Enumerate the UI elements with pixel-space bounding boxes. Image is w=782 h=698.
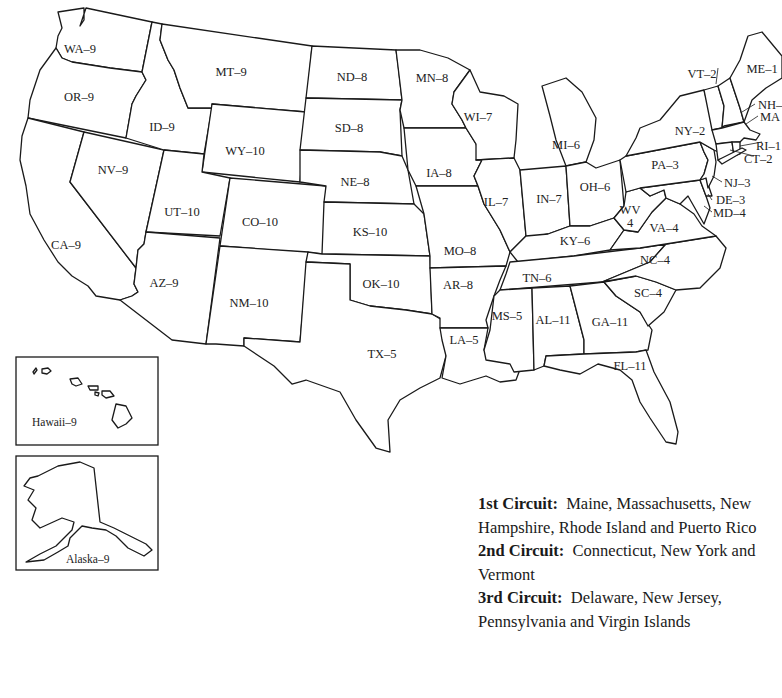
hawaii-island-maui (102, 391, 114, 398)
label-wa: WA–9 (64, 43, 96, 56)
hawaii-island-oahu (70, 378, 82, 386)
alaska-shape (24, 462, 152, 562)
hawaii-island-big-island (112, 404, 132, 428)
label-wi: WI–7 (464, 111, 492, 124)
hawaii-island-kauai (42, 368, 51, 374)
label-ut: UT–10 (164, 206, 199, 219)
label-hawaii: Hawaii–9 (32, 416, 77, 429)
label-ga: GA–11 (592, 316, 628, 329)
label-me: ME–1 (746, 63, 777, 76)
legend-item-3rd-circuit: 3rd Circuit: Delaware, New Jersey, Penns… (478, 586, 782, 633)
label-nm: NM–10 (230, 297, 269, 310)
label-ia: IA–8 (426, 167, 452, 180)
label-sd: SD–8 (335, 122, 363, 135)
label-ky: KY–6 (560, 235, 591, 248)
label-sc: SC–4 (634, 287, 662, 300)
label-mt: MT–9 (215, 66, 246, 79)
hawaii-island-molokai (88, 386, 98, 390)
legend-item-1st-circuit: 1st Circuit: Maine, Massachusetts, New H… (478, 492, 782, 539)
label-nd: ND–8 (337, 71, 368, 84)
label-oh: OH–6 (580, 181, 611, 194)
label-mo: MO–8 (444, 245, 477, 258)
hawaii-island-lanai (95, 392, 99, 396)
circuit-legend: 1st Circuit: Maine, Massachusetts, New H… (478, 492, 782, 634)
label-md: MD–4 (713, 207, 746, 220)
legend-heading: 2nd Circuit: (478, 541, 564, 560)
label-nv: NV–9 (98, 164, 129, 177)
label-in: IN–7 (536, 193, 562, 206)
label-tx: TX–5 (367, 348, 396, 361)
label-vt: VT–2 (687, 68, 716, 81)
ma-leader-line (746, 116, 758, 124)
label-ms: MS–5 (492, 310, 523, 323)
state-fl[interactable] (544, 350, 678, 444)
label-mn: MN–8 (416, 72, 449, 85)
label-az: AZ–9 (149, 277, 178, 290)
label-ok: OK–10 (363, 278, 400, 291)
legend-heading: 1st Circuit: (478, 494, 558, 513)
label-ct: CT–2 (744, 153, 772, 166)
label-wv-line2: 4 (627, 217, 633, 230)
label-ne: NE–8 (340, 176, 369, 189)
legend-item-2nd-circuit: 2nd Circuit: Connecticut, New York and V… (478, 539, 782, 586)
label-la: LA–5 (449, 334, 478, 347)
label-ny: NY–2 (675, 125, 706, 138)
legend-heading: 3rd Circuit: (478, 588, 562, 607)
label-alaska: Alaska–9 (66, 553, 109, 566)
label-id: ID–9 (149, 121, 175, 134)
label-il: IL–7 (484, 196, 508, 209)
label-pa: PA–3 (651, 159, 678, 172)
label-ks: KS–10 (353, 226, 388, 239)
nj-leader-line (712, 176, 722, 182)
label-ma: MA (760, 111, 780, 124)
label-mi: MI–6 (552, 139, 580, 152)
label-ar: AR–8 (443, 279, 473, 292)
state-mi[interactable] (542, 78, 596, 166)
label-ca: CA–9 (51, 239, 81, 252)
label-co: CO–10 (242, 216, 278, 229)
label-nj: NJ–3 (724, 177, 750, 190)
label-tn: TN–6 (522, 272, 551, 285)
label-wy: WY–10 (225, 145, 265, 158)
label-nc: NC–4 (640, 254, 670, 267)
label-or: OR–9 (64, 91, 94, 104)
label-al: AL–11 (536, 314, 571, 327)
label-va: VA–4 (650, 222, 679, 235)
label-fl: FL–11 (614, 360, 647, 373)
hawaii-island-niihau (33, 368, 37, 374)
